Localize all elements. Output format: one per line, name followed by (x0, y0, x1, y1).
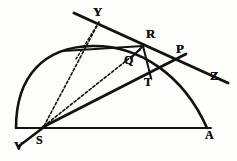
point-label-s: S (36, 134, 43, 146)
line-s-to-y-dotted (44, 22, 99, 126)
line-y-perpendicular-drop (76, 22, 99, 59)
point-label-r: R (146, 27, 155, 40)
point-label-y: Y (93, 5, 102, 18)
point-label-q: Q (124, 54, 133, 66)
geometry-figure: Y R P Z Q T A S V (0, 0, 237, 161)
line-s-to-p (43, 54, 186, 127)
point-label-t: T (144, 76, 152, 88)
point-label-p: P (176, 42, 184, 55)
point-label-z: Z (210, 69, 219, 82)
point-label-a: A (205, 129, 214, 141)
point-label-v: V (14, 139, 23, 152)
